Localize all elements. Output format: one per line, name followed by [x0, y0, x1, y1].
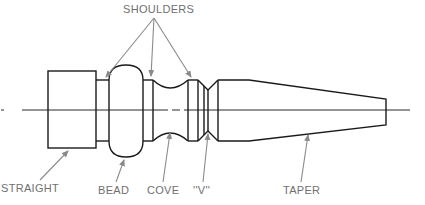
label-taper: TAPER	[283, 184, 320, 196]
label-shoulders: SHOULDERS	[123, 3, 194, 15]
label-straight: STRAIGHT	[1, 182, 59, 194]
bead-section	[109, 65, 143, 157]
label-cove: COVE	[147, 184, 179, 196]
bottom-arrows	[40, 133, 308, 182]
spindle-diagram	[0, 0, 425, 205]
label-bead: BEAD	[98, 184, 129, 196]
shoulders-arrows	[106, 18, 191, 77]
label-v: ''V''	[193, 184, 210, 196]
